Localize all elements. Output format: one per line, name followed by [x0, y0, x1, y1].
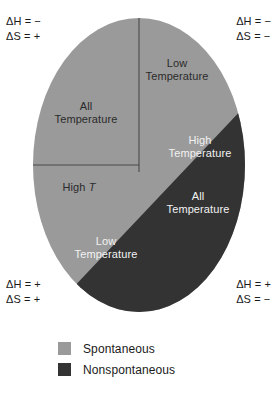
legend-item-spontaneous: Spontaneous: [58, 338, 238, 359]
region-label-line-2: Temperature: [150, 203, 246, 216]
temperature-symbol: T: [89, 181, 96, 193]
entropy-label-bottom-right: ΔS = −: [236, 292, 271, 307]
region-label-low-temperature-top: Low Temperature: [140, 57, 214, 83]
enthalpy-label-top-left: ΔH = −: [6, 14, 41, 29]
legend-swatch-nonspontaneous: [58, 363, 71, 376]
region-label-line-1: All: [150, 190, 246, 203]
region-label-high-t: High T: [42, 181, 116, 194]
legend-label-nonspontaneous: Nonspontaneous: [83, 363, 175, 377]
enthalpy-label-bottom-left: ΔH = +: [6, 277, 41, 292]
region-label-line-2: Temperature: [38, 113, 134, 126]
legend: Spontaneous Nonspontaneous: [58, 338, 238, 380]
region-label-all-temperature-bottom: All Temperature: [150, 190, 246, 216]
region-label-line-2: Temperature: [152, 147, 248, 160]
corner-label-top-right: ΔH = − ΔS = −: [236, 14, 271, 44]
region-label-all-temperature-top: All Temperature: [38, 100, 134, 126]
entropy-label-top-right: ΔS = −: [236, 29, 271, 44]
region-label-line-1: Low: [58, 235, 154, 248]
entropy-label-top-left: ΔS = +: [6, 29, 41, 44]
region-label-line-1: Low: [140, 57, 214, 70]
enthalpy-label-top-right: ΔH = −: [236, 14, 271, 29]
region-label-low-temperature-bottom: Low Temperature: [58, 235, 154, 261]
region-label-line-1: All: [38, 100, 134, 113]
corner-label-top-left: ΔH = − ΔS = +: [6, 14, 41, 44]
region-label-line-1: High: [152, 134, 248, 147]
region-label-high-temperature: High Temperature: [152, 134, 248, 160]
region-label-line-2: Temperature: [140, 70, 214, 83]
legend-swatch-spontaneous: [58, 342, 71, 355]
region-label-high-t-line: High T: [42, 181, 116, 194]
enthalpy-label-bottom-right: ΔH = +: [236, 277, 271, 292]
region-label-line-2: Temperature: [58, 248, 154, 261]
legend-item-nonspontaneous: Nonspontaneous: [58, 359, 238, 380]
region-label-line-1: High: [62, 181, 85, 193]
corner-label-bottom-left: ΔH = + ΔS = +: [6, 277, 41, 307]
entropy-label-bottom-left: ΔS = +: [6, 292, 41, 307]
corner-label-bottom-right: ΔH = + ΔS = −: [236, 277, 271, 307]
legend-label-spontaneous: Spontaneous: [83, 342, 155, 356]
